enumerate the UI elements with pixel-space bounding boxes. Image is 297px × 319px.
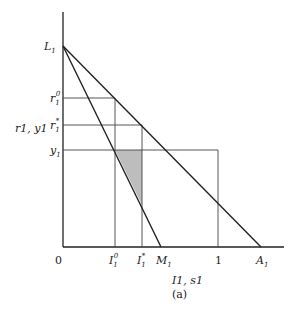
label-y1: y1: [49, 144, 61, 159]
label-A1: A1: [255, 254, 268, 269]
label-M1: M1: [155, 254, 172, 269]
figure-caption: (a): [172, 288, 187, 301]
y-axis-label: r1, y1: [15, 122, 47, 135]
label-one: 1: [215, 254, 222, 267]
x-axis-label: I1, s1: [171, 274, 203, 287]
line-L1-M1: [63, 46, 161, 247]
label-L1: L1: [43, 40, 56, 55]
label-I1-star: I1*: [136, 252, 146, 269]
label-r1-star: r1*: [50, 117, 60, 134]
label-I1-0: I10: [108, 252, 119, 269]
diagram: L1 r10 r1* y1 r1, y1 0 I10 I1* M1 1 A1 I…: [0, 0, 297, 319]
label-r1-0: r10: [50, 90, 61, 107]
shaded-triangle: [115, 150, 142, 205]
label-origin: 0: [55, 254, 62, 267]
line-L1-A1: [63, 46, 261, 247]
